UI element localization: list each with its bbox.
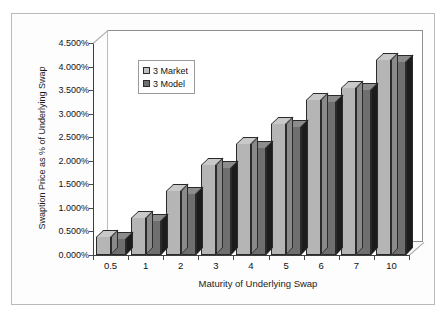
- bar-side-face: [146, 211, 153, 255]
- y-axis-tick-label: 3.000%: [58, 109, 89, 119]
- bar-front-face: [166, 191, 181, 255]
- bar-front-face: [376, 60, 391, 256]
- bar-side-face: [231, 160, 238, 255]
- x-axis-tick-label: 1: [143, 260, 148, 271]
- chart-figure: Swaption Price as % of Underlying Swap 0…: [0, 0, 448, 319]
- x-axis-tick-mark: [304, 255, 305, 260]
- y-axis-tick-label: 2.500%: [58, 132, 89, 142]
- y-axis-tick-label: 3.500%: [58, 85, 89, 95]
- x-axis-tick-mark: [233, 255, 234, 260]
- bar-side-face: [391, 52, 398, 255]
- bar-market-0.5: [96, 237, 111, 255]
- x-axis-tick-label: 7: [354, 260, 359, 271]
- chart-legend: 3 Market3 Model: [138, 60, 195, 94]
- bar-front-face: [96, 237, 111, 255]
- x-axis-tick-mark: [198, 255, 199, 260]
- y-axis-tick-label: 1.500%: [58, 179, 89, 189]
- bar-front-face: [306, 100, 321, 255]
- y-axis-tick-label: 0.000%: [58, 250, 89, 260]
- legend-label: 3 Market: [153, 66, 188, 76]
- x-axis-tick-label: 3: [213, 260, 218, 271]
- y-axis-tick-label: 1.000%: [58, 203, 89, 213]
- bar-side-face: [321, 92, 328, 255]
- x-axis-tick-labels: 0.5123456710: [93, 260, 423, 276]
- legend-label: 3 Model: [153, 79, 185, 89]
- x-axis-tick-label: 6: [319, 260, 324, 271]
- x-axis-tick-mark: [128, 255, 129, 260]
- legend-swatch-model-icon: [143, 80, 150, 87]
- y-axis-tick-label: 4.500%: [58, 38, 89, 48]
- x-axis-tick-mark: [269, 255, 270, 260]
- x-axis-tick-mark: [93, 255, 94, 260]
- bar-side-face: [161, 214, 168, 255]
- legend-swatch-market-icon: [143, 67, 150, 74]
- y-axis-tick-labels: 0.000%0.500%1.000%1.500%2.000%2.500%3.00…: [41, 13, 93, 305]
- y-axis-tick-label: 0.500%: [58, 226, 89, 236]
- legend-item-market: 3 Market: [143, 64, 188, 77]
- x-axis-tick-label: 4: [248, 260, 253, 271]
- bar-front-face: [341, 88, 356, 255]
- bar-side-face: [266, 140, 273, 255]
- bar-side-face: [181, 184, 188, 255]
- bar-side-face: [336, 94, 343, 255]
- x-axis-title: Maturity of Underlying Swap: [93, 278, 423, 289]
- bar-market-3: [201, 165, 216, 255]
- bar-front-face: [201, 165, 216, 255]
- bar-side-face: [371, 83, 378, 255]
- bar-side-face: [251, 137, 258, 255]
- y-axis-tick-label: 4.000%: [58, 62, 89, 72]
- x-axis-tick-mark: [163, 255, 164, 260]
- bar-side-face: [286, 117, 293, 255]
- bar-side-face: [406, 54, 413, 255]
- bar-market-2: [166, 191, 181, 255]
- bar-front-face: [271, 124, 286, 255]
- bar-market-5: [271, 124, 286, 255]
- x-axis-tick-mark: [339, 255, 340, 260]
- bar-side-face: [216, 157, 223, 255]
- legend-item-model: 3 Model: [143, 77, 188, 90]
- bar-market-10: [376, 60, 391, 256]
- x-axis-tick-label: 5: [283, 260, 288, 271]
- x-axis-tick-label: 0.5: [104, 260, 117, 271]
- bar-market-7: [341, 88, 356, 255]
- bar-side-face: [301, 119, 308, 255]
- x-axis-tick-mark: [374, 255, 375, 260]
- bar-market-6: [306, 100, 321, 255]
- x-axis-tick-mark: [409, 255, 410, 260]
- bar-side-face: [196, 186, 203, 255]
- x-axis-tick-label: 2: [178, 260, 183, 271]
- x-axis-tick-label: 10: [386, 260, 397, 271]
- y-axis-tick-label: 2.000%: [58, 156, 89, 166]
- chart-canvas: Swaption Price as % of Underlying Swap 0…: [11, 13, 435, 305]
- bar-side-face: [356, 80, 363, 255]
